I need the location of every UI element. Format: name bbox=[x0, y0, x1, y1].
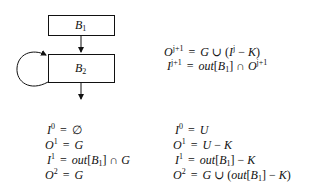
right-o1: O1=U − K bbox=[173, 138, 232, 153]
flow-graph bbox=[0, 0, 140, 110]
block-b2-label: B2 bbox=[75, 61, 86, 76]
right-i0: I0=U bbox=[175, 123, 208, 138]
recurrence-i: Ij+1=out[B1] ∩ Oj+1 bbox=[167, 59, 267, 74]
right-o2: O2=G ∪ (out[B1] − K) bbox=[173, 168, 291, 183]
left-o1: O1=G bbox=[45, 138, 83, 153]
block-b1-label: B1 bbox=[75, 18, 86, 33]
left-i0: I0=∅ bbox=[47, 123, 82, 138]
self-loop-edge bbox=[17, 52, 48, 86]
right-i1: I1=out[B1] − K bbox=[175, 153, 255, 168]
left-i1: I1=out[B1] ∩ G bbox=[47, 153, 130, 168]
left-o2: O2=G bbox=[45, 168, 83, 183]
